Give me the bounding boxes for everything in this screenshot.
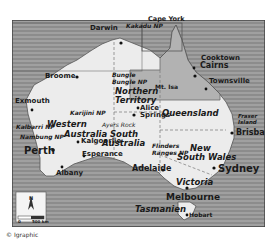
scale-label: 500 km bbox=[32, 220, 49, 224]
state-qld: Queensland bbox=[162, 109, 219, 118]
scale-zero: 0 bbox=[18, 220, 21, 224]
city-perth: Perth bbox=[24, 146, 55, 156]
city-adelaide: Adelaide bbox=[132, 165, 171, 173]
state-vic: Victoria bbox=[176, 178, 213, 187]
city-sydney: Sydney bbox=[218, 164, 259, 174]
australia-map: Darwin Kakadu NP Cape York Broome Bungle… bbox=[12, 20, 265, 227]
city-cairns: Cairns bbox=[200, 62, 228, 70]
city-brisbane: Brisbane bbox=[236, 129, 265, 137]
copyright-credit: © Igraphic bbox=[6, 231, 38, 238]
park-nambung: Nambung NP bbox=[20, 134, 64, 140]
label-cape-york: Cape York bbox=[148, 16, 185, 23]
city-exmouth: Exmouth bbox=[15, 98, 50, 105]
north-arrow-label: N bbox=[29, 196, 33, 201]
city-mt-isa: Mt. Isa bbox=[155, 84, 178, 90]
city-townsville: Townsville bbox=[209, 78, 250, 85]
city-albany: Albany bbox=[56, 170, 83, 177]
city-esperance: Esperance bbox=[82, 151, 123, 158]
state-nsw-2: South Wales bbox=[177, 153, 236, 162]
city-hobart: Hobart bbox=[189, 212, 212, 218]
city-broome: Broome bbox=[45, 73, 75, 80]
park-bungle-2: Bungle NP bbox=[112, 79, 147, 85]
park-ayers-rock: Ayers Rock bbox=[102, 122, 135, 128]
city-darwin: Darwin bbox=[90, 25, 118, 32]
state-tas: Tasmanien bbox=[135, 205, 186, 214]
city-melbourne: Melbourne bbox=[166, 193, 220, 202]
fraser-2: Island bbox=[238, 120, 257, 126]
park-karijini: Karijini NP bbox=[70, 110, 106, 116]
park-kalbarri: Kalbarri NP bbox=[16, 124, 55, 130]
park-kakadu: Kakadu NP bbox=[126, 23, 163, 29]
city-kalgoorlie: Kalgoorlie bbox=[81, 138, 121, 145]
